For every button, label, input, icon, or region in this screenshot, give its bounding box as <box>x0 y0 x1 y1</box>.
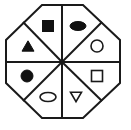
octagon-diagram <box>0 0 131 130</box>
octagon-figure-container <box>0 0 131 130</box>
sector-shape-top-right-ellipse-filled <box>70 22 86 31</box>
sector-shape-bottom-left-ellipse-outline <box>40 93 56 102</box>
sector-shape-right-upper-circle-outline <box>91 40 103 52</box>
sector-shape-left-lower-circle-filled <box>21 70 33 82</box>
sector-divider-lines <box>6 5 120 118</box>
sector-shape-right-lower-square-outline <box>92 71 103 82</box>
sector-shape-top-left-square-filled <box>43 21 54 32</box>
